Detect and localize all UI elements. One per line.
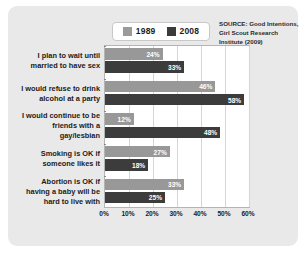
bar-group: 27%18% [105,143,249,176]
legend-entry-1989: 1989 [123,27,156,36]
bar-value-label: 33% [168,181,181,188]
bar-value-label: 25% [149,194,162,201]
category-label-line: having a baby will be [8,187,100,197]
bar-2008: 33% [105,61,184,72]
bar-2008: 18% [105,159,148,170]
bar-group: 46%58% [105,78,249,111]
bar-value-label: 24% [146,50,159,57]
category-label-line: hard to live with [8,197,100,207]
bar-group: 12%48% [105,110,249,143]
source-note: SOURCE: Good Intentions, Girl Scout Rese… [219,20,301,46]
x-axis-tick-label: 10% [121,210,134,217]
x-axis-tick-label: 40% [193,210,206,217]
bar-group: 33%25% [105,175,249,208]
category-label-line: friends with a [8,122,100,132]
chart-row: Smoking is OK ifsomeone likes it27%18% [0,143,306,176]
bar-group: 24%33% [105,45,249,78]
source-line-1: SOURCE: Good Intentions, [219,20,301,29]
chart-legend: 1989 2008 [112,22,210,41]
chart-row: I plan to wait untilmarried to have sex2… [0,45,306,78]
category-label-line: I plan to wait until [8,51,100,61]
bar-value-label: 27% [154,148,167,155]
category-label: I plan to wait untilmarried to have sex [8,51,100,71]
chart-row: I would refuse to drinkalcohol at a part… [0,78,306,111]
x-axis-tick-label: 50% [217,210,230,217]
category-label-line: I would continue to be [8,112,100,122]
bar-value-label: 18% [132,161,145,168]
legend-swatch-1989 [123,27,132,36]
x-axis-tick-label: 20% [145,210,158,217]
category-label-line: Smoking is OK if [8,149,100,159]
bar-value-label: 48% [204,129,217,136]
category-label-line: I would refuse to drink [8,84,100,94]
x-axis: 0%10%20%30%40%50%60% [104,210,250,224]
category-label: I would refuse to drinkalcohol at a part… [8,84,100,104]
x-axis-tick-label: 60% [241,210,254,217]
legend-label-1989: 1989 [136,27,156,36]
bar-1989: 27% [105,146,170,157]
bar-2008: 25% [105,192,165,203]
bar-1989: 33% [105,179,184,190]
category-label: I would continue to befriends with agay/… [8,112,100,142]
x-axis-tick-label: 30% [169,210,182,217]
category-label: Abortion is OK ifhaving a baby will beha… [8,177,100,207]
chart-row: Abortion is OK ifhaving a baby will beha… [0,175,306,208]
legend-swatch-2008 [167,27,176,36]
chart-row: I would continue to befriends with agay/… [0,110,306,143]
category-label-line: alcohol at a party [8,94,100,104]
bar-1989: 24% [105,48,163,59]
category-label-line: someone likes it [8,159,100,169]
category-label: Smoking is OK ifsomeone likes it [8,149,100,169]
chart-rows: I plan to wait untilmarried to have sex2… [0,45,306,208]
x-axis-tick-label: 0% [99,210,109,217]
bar-2008: 48% [105,127,220,138]
bar-value-label: 12% [118,116,131,123]
category-label-line: gay/lesbian [8,131,100,141]
bar-1989: 12% [105,113,134,124]
legend-entry-2008: 2008 [167,27,200,36]
bar-value-label: 58% [228,96,241,103]
legend-label-2008: 2008 [180,27,200,36]
source-line-2: Girl Scout Research [219,29,301,38]
bar-2008: 58% [105,94,244,105]
bar-value-label: 33% [168,64,181,71]
bar-value-label: 46% [199,83,212,90]
category-label-line: married to have sex [8,61,100,71]
category-label-line: Abortion is OK if [8,177,100,187]
bar-1989: 46% [105,81,215,92]
